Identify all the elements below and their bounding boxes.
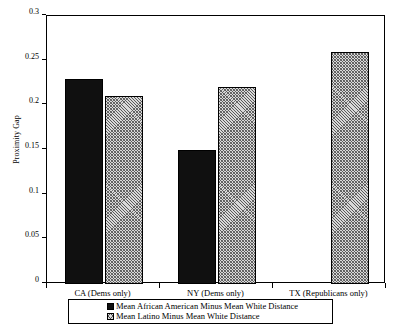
bar <box>331 52 369 284</box>
y-tick-label: 0 <box>35 276 39 284</box>
x-tick-mark <box>272 283 273 288</box>
x-category-label: TX (Republicans only) <box>289 288 367 298</box>
x-tick-mark <box>385 283 386 288</box>
legend-label: Mean African American Minus Mean White D… <box>116 301 298 311</box>
bar-chart-figure: Proximity Gap 00.050.10.150.20.250.3 CA … <box>0 0 401 330</box>
y-tick-label: 0.15 <box>25 142 39 150</box>
plot-area <box>46 15 385 283</box>
bar <box>105 96 143 284</box>
legend-label: Mean Latino Minus Mean White Distance <box>116 311 260 321</box>
x-category-label: NY (Dems only) <box>187 288 244 298</box>
y-axis-title: Proximity Gap <box>12 80 21 200</box>
y-tick-label: 0.1 <box>29 187 39 195</box>
legend-swatch-icon <box>107 313 114 320</box>
y-tick-label: 0.25 <box>25 53 39 61</box>
bar <box>65 79 103 284</box>
x-category-label: CA (Dems only) <box>74 288 130 298</box>
chart-legend: Mean African American Minus Mean White D… <box>68 299 333 324</box>
bar <box>218 87 256 284</box>
legend-item: Mean Latino Minus Mean White Distance <box>71 311 330 321</box>
legend-item: Mean African American Minus Mean White D… <box>71 301 330 311</box>
bar <box>178 150 216 284</box>
x-tick-mark <box>159 283 160 288</box>
y-tick-label: 0.2 <box>29 97 39 105</box>
legend-swatch-icon <box>107 303 114 310</box>
y-tick-label: 0.05 <box>25 231 39 239</box>
y-tick-label: 0.3 <box>29 8 39 16</box>
x-tick-mark <box>46 283 47 288</box>
